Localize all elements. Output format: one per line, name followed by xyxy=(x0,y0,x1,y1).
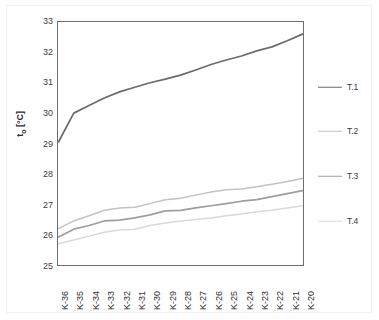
y-axis-tick-label: 32 xyxy=(43,47,53,56)
legend-swatch-icon xyxy=(318,87,342,88)
x-axis-tick-label: K-33 xyxy=(107,291,116,310)
y-axis-tick-label: 31 xyxy=(43,78,53,87)
x-axis-tick-label: K-21 xyxy=(292,291,301,310)
x-axis-tick-label: K-22 xyxy=(276,291,285,310)
x-axis-tick-label: K-31 xyxy=(138,291,147,310)
x-axis-tick-label: K-26 xyxy=(215,291,224,310)
legend-label: T.2 xyxy=(347,127,358,136)
legend-item-t-1[interactable]: T.1 xyxy=(318,83,358,92)
y-axis-tick-label: 33 xyxy=(43,17,53,26)
y-axis-tick-label: 30 xyxy=(43,108,53,117)
y-axis-title-unit: [°C] xyxy=(15,111,25,130)
x-axis-tick-label: K-34 xyxy=(92,291,101,310)
legend-item-t-3[interactable]: T.3 xyxy=(318,172,358,181)
x-axis-tick-label: K-30 xyxy=(153,291,162,310)
x-axis-tick-labels: K-36K-35K-34K-33K-32K-31K-30K-29K-28K-27… xyxy=(57,268,304,316)
x-axis-tick-label: K-35 xyxy=(76,291,85,310)
x-axis-tick-label: K-29 xyxy=(169,291,178,310)
x-axis-tick-label: K-28 xyxy=(184,291,193,310)
x-axis-tick-label: K-20 xyxy=(307,291,316,310)
legend-item-t-4[interactable]: T.4 xyxy=(318,217,358,226)
y-axis-title-sub: o xyxy=(20,130,27,134)
x-axis-tick-label: K-27 xyxy=(199,291,208,310)
x-axis-tick-label: K-36 xyxy=(61,291,70,310)
y-axis-tick-label: 29 xyxy=(43,139,53,148)
legend-label: T.1 xyxy=(347,83,358,92)
x-axis-tick-label: K-23 xyxy=(261,291,270,310)
plot-svg xyxy=(58,22,303,265)
x-axis-tick-label: K-24 xyxy=(246,291,255,310)
legend-label: T.4 xyxy=(347,217,358,226)
y-axis-tick-label: 26 xyxy=(43,231,53,240)
y-axis-tick-labels: 252627282930313233 xyxy=(30,21,53,266)
legend-swatch-icon xyxy=(318,221,342,222)
series-line-t-1 xyxy=(58,34,302,142)
y-axis-tick-label: 28 xyxy=(43,170,53,179)
y-axis-tick-label: 27 xyxy=(43,200,53,209)
series-line-t-4 xyxy=(58,206,302,244)
legend-item-t-2[interactable]: T.2 xyxy=(318,127,358,136)
legend-swatch-icon xyxy=(318,131,342,132)
x-axis-tick-label: K-25 xyxy=(230,291,239,310)
y-axis-tick-label: 25 xyxy=(43,262,53,271)
chart-legend: T.1T.2T.3T.4 xyxy=(318,21,376,266)
plot-area xyxy=(57,21,304,266)
chart-page: to [°C] 252627282930313233 K-36K-35K-34K… xyxy=(0,0,379,320)
y-axis-title-base: t xyxy=(15,134,25,137)
legend-swatch-icon xyxy=(318,176,342,177)
y-axis-title: to [°C] xyxy=(15,94,27,154)
x-axis-tick-label: K-32 xyxy=(123,291,132,310)
legend-label: T.3 xyxy=(347,172,358,181)
